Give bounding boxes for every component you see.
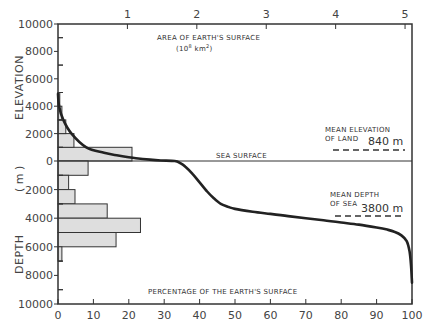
bottom-tick-label: 100: [402, 309, 423, 322]
left-tick-label: 10000: [18, 18, 53, 31]
bottom-tick-label: 30: [157, 309, 171, 322]
left-tick-label: 6000: [25, 73, 53, 86]
bottom-axis-ticks: 0102030405060708090100: [55, 299, 423, 322]
bottom-tick-label: 80: [334, 309, 348, 322]
sea-bar: [58, 204, 107, 218]
bottom-tick-label: 10: [86, 309, 100, 322]
sea-bar: [58, 233, 116, 247]
unit-axis-title: ( m ): [13, 166, 26, 192]
hypsometric-curve: [58, 94, 412, 283]
bottom-tick-label: 60: [263, 309, 277, 322]
hypsometric-chart: 1000080006000400020000200040006000800010…: [0, 0, 426, 325]
bottom-tick-label: 0: [55, 309, 62, 322]
left-tick-label: 4000: [25, 100, 53, 113]
mean-elevation-label-line2: OF LAND: [325, 135, 358, 143]
left-tick-label: 4000: [25, 212, 53, 225]
sea-bar: [58, 161, 88, 175]
top-tick-label: 1: [124, 8, 131, 21]
sea-surface-label: SEA SURFACE: [216, 152, 267, 160]
mean-elevation-label-line1: MEAN ELEVATION: [325, 126, 390, 134]
mean-elevation-value: 840 m: [368, 135, 403, 148]
bottom-tick-label: 20: [122, 309, 136, 322]
left-tick-label: 10000: [18, 298, 53, 311]
mean-depth-value: 3800 m: [361, 202, 403, 215]
bottom-tick-label: 90: [370, 309, 384, 322]
left-tick-label: 8000: [25, 45, 53, 58]
top-axis-units: (108 km2): [176, 43, 213, 53]
bottom-tick-label: 50: [228, 309, 242, 322]
mean-depth-label-line1: MEAN DEPTH: [330, 191, 379, 199]
sea-histogram: [58, 161, 140, 261]
bottom-axis-title: PERCENTAGE OF THE EARTH'S SURFACE: [148, 288, 298, 296]
top-tick-label: 5: [402, 8, 409, 21]
plot-frame: [58, 24, 412, 304]
left-tick-label: 6000: [25, 241, 53, 254]
top-axis-ticks: 12345: [124, 8, 409, 29]
bottom-tick-label: 40: [193, 309, 207, 322]
top-tick-label: 2: [193, 8, 200, 21]
left-tick-label: 2000: [25, 184, 53, 197]
sea-bar: [58, 175, 69, 189]
bottom-tick-label: 70: [299, 309, 313, 322]
top-tick-label: 4: [332, 8, 339, 21]
top-tick-label: 3: [263, 8, 270, 21]
left-tick-label: 2000: [25, 128, 53, 141]
left-tick-label: 8000: [25, 269, 53, 282]
top-axis-title: AREA OF EARTH'S SURFACE: [157, 34, 260, 42]
sea-bar: [58, 190, 75, 204]
sea-bar: [58, 218, 140, 232]
elevation-axis-title: ELEVATION: [13, 55, 26, 120]
depth-axis-title: DEPTH: [13, 234, 26, 274]
mean-depth-label-line2: OF SEA: [330, 200, 357, 208]
left-tick-label: 0: [46, 155, 53, 168]
